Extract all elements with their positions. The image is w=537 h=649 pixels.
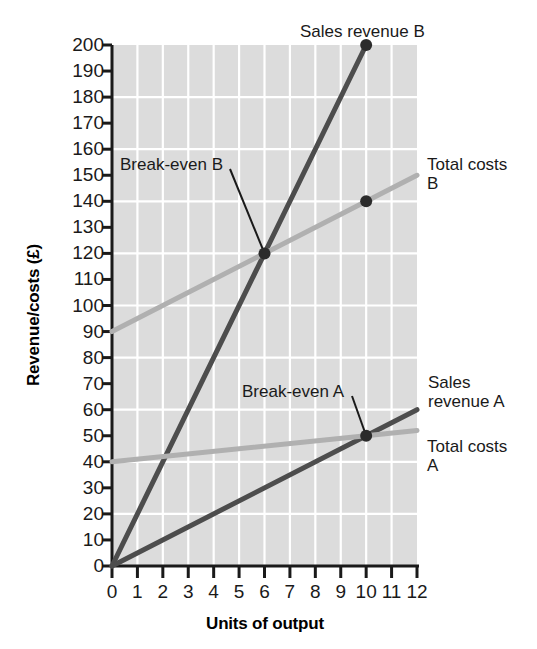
break-even-chart: Revenue/costs (£) Units of output 010203… bbox=[0, 0, 537, 649]
series-label: Total costs A bbox=[427, 437, 513, 475]
x-tick-label: 12 bbox=[402, 582, 432, 601]
annotation-label: Break-even A bbox=[242, 382, 344, 401]
series-label: Total costs B bbox=[427, 155, 513, 193]
annotation-label: Break-even B bbox=[120, 155, 223, 174]
series-label: Sales revenue B bbox=[300, 22, 425, 41]
series-label: Sales revenue A bbox=[428, 373, 506, 411]
x-axis-tick-labels: 0123456789101112 bbox=[0, 0, 537, 649]
